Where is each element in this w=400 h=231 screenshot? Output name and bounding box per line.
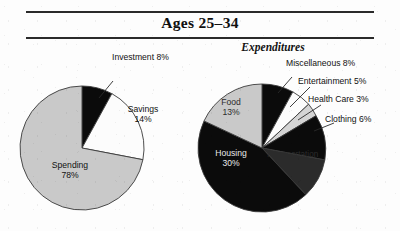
- label-savings-value: 14%: [120, 114, 166, 124]
- heading-rule-top: [26, 11, 374, 13]
- label-housing-value: 30%: [205, 158, 257, 168]
- label-investment: Investment 8%: [112, 52, 169, 62]
- expenditures-pie-chart: [190, 45, 400, 231]
- label-miscellaneous: Miscellaneous 8%: [286, 58, 355, 68]
- label-spending: Spending 78%: [38, 160, 102, 181]
- label-transportation: Transportation 16%: [255, 150, 329, 170]
- page-title: Ages 25–34: [0, 14, 400, 32]
- label-spending-value: 78%: [38, 170, 102, 180]
- label-housing-name: Housing: [205, 148, 257, 158]
- label-food: Food 13%: [210, 97, 252, 118]
- label-housing: Housing 30%: [205, 148, 257, 169]
- label-savings-name: Savings: [120, 104, 166, 114]
- savings-pie-svg: [0, 45, 200, 231]
- label-food-value: 13%: [210, 107, 252, 117]
- expenditures-pie-svg: [190, 45, 400, 231]
- label-savings: Savings 14%: [120, 104, 166, 125]
- label-health-care: Health Care 3%: [308, 94, 369, 104]
- label-transportation-value: 16%: [255, 160, 329, 170]
- label-clothing: Clothing 6%: [325, 114, 371, 124]
- savings-pie-chart: [0, 45, 200, 231]
- heading-rule-bottom: [26, 37, 374, 39]
- figure-page: Ages 25–34 Expenditures Investment 8% Sa…: [0, 0, 400, 231]
- label-food-name: Food: [210, 97, 252, 107]
- label-spending-name: Spending: [38, 160, 102, 170]
- label-entertainment: Entertainment 5%: [298, 76, 366, 86]
- label-transportation-name: Transportation: [255, 150, 329, 160]
